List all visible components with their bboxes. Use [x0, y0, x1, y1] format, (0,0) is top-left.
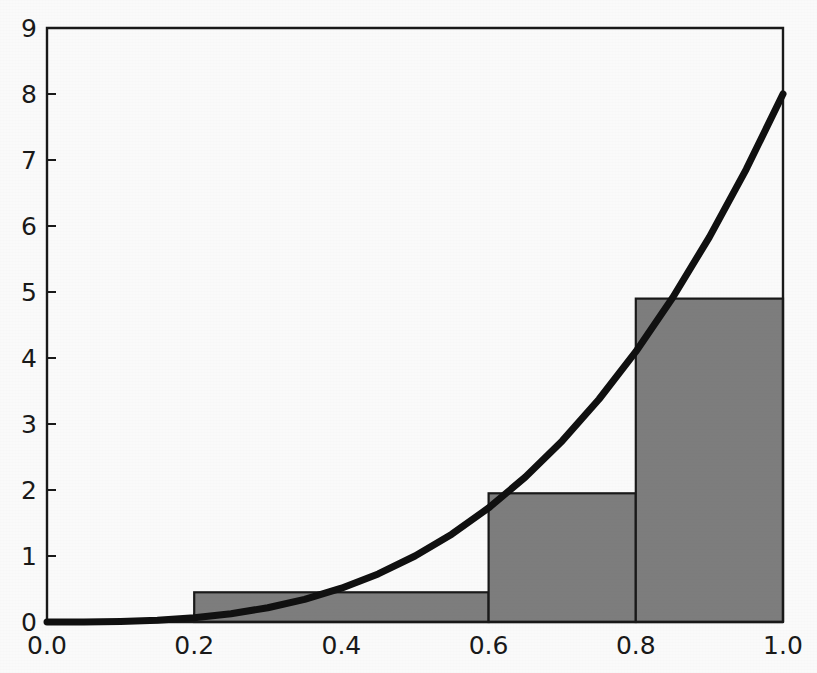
bar-3 [636, 299, 783, 622]
figure-canvas: 0123456789 0.00.20.40.60.81.0 [0, 0, 817, 673]
y-axis-tick-labels: 0123456789 [21, 14, 37, 637]
y-tick-label: 8 [21, 80, 37, 109]
y-tick-label: 7 [21, 146, 37, 175]
x-tick-label: 0.6 [469, 631, 509, 660]
chart-plot: 0123456789 0.00.20.40.60.81.0 [0, 0, 817, 673]
y-tick-label: 2 [21, 476, 37, 505]
y-tick-label: 1 [21, 542, 37, 571]
bar-2 [489, 493, 636, 622]
x-tick-label: 1.0 [763, 631, 803, 660]
bar-1 [194, 592, 488, 622]
y-tick-label: 5 [21, 278, 37, 307]
x-axis-tick-labels: 0.00.20.40.60.81.0 [27, 631, 803, 660]
x-tick-label: 0.2 [174, 631, 214, 660]
y-tick-label: 9 [21, 14, 37, 43]
y-tick-label: 4 [21, 344, 37, 373]
x-tick-label: 0.0 [27, 631, 67, 660]
y-tick-label: 6 [21, 212, 37, 241]
bar-series [194, 299, 783, 622]
x-tick-label: 0.8 [616, 631, 656, 660]
y-tick-label: 3 [21, 410, 37, 439]
y-axis-tick-marks [47, 28, 56, 622]
x-tick-label: 0.4 [322, 631, 362, 660]
